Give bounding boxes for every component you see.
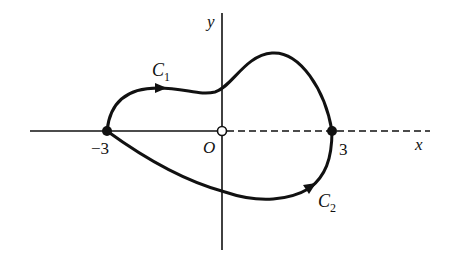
curve-c2-label: C2 [318,191,336,215]
origin-point [218,127,227,136]
line-integral-diagram: y x O −3 3 C1 C2 [0,0,449,259]
curve-c1-label: C1 [152,60,170,84]
y-axis-label: y [205,12,215,31]
curve-c1 [107,53,332,131]
x-axis-label: x [414,135,423,154]
tick-label-minus-3: −3 [91,139,109,158]
point-minus-3 [102,126,112,136]
origin-label: O [203,138,215,157]
curve-c2 [107,131,332,199]
c1-direction-arrow-icon [155,83,167,93]
point-3 [327,126,337,136]
tick-label-3: 3 [339,140,348,159]
